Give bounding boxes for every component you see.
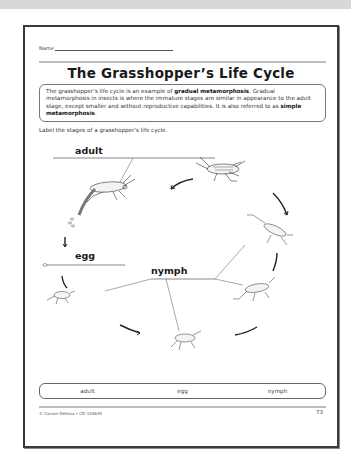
worksheet-page: Name The Grasshopper’s Life Cycle The gr… — [23, 25, 339, 448]
intro-text-3: . — [95, 110, 97, 116]
nymph-large-icon — [233, 277, 275, 301]
adult-grasshopper-laying-icon — [79, 175, 135, 215]
label-nymph: nymph — [151, 265, 187, 276]
word-bank-egg: egg — [143, 388, 223, 394]
instructions-text: Label the stages of a grasshopper’s life… — [39, 127, 167, 133]
adult-grasshopper-top-icon — [196, 157, 245, 181]
eggs-icon — [68, 218, 74, 227]
word-bank-nymph: nymph — [238, 388, 318, 394]
name-label: Name — [39, 45, 54, 51]
word-bank-adult: adult — [48, 388, 128, 394]
egg-icon — [43, 264, 47, 267]
copyright-text: © Carson-Dellosa • CD-104639 — [39, 411, 102, 416]
intro-text-box: The grasshopper’s life cycle is an examp… — [39, 84, 326, 122]
name-blank-line[interactable] — [55, 45, 173, 51]
word-bank: adult egg nymph — [39, 383, 326, 399]
cycle-arrow-icon — [62, 179, 288, 335]
life-cycle-diagram: adult egg nymph — [25, 135, 337, 385]
nymph-small-icon — [47, 291, 75, 304]
nymph-medium-icon — [171, 331, 201, 350]
page-number: 73 — [316, 409, 323, 415]
scanner-background-strip — [0, 0, 351, 9]
label-egg: egg — [75, 250, 95, 261]
intro-bold-gradual: gradual metamorphosis — [174, 88, 249, 94]
footer-divider — [39, 406, 326, 408]
nymph-oldest-icon — [247, 215, 293, 245]
page-title: The Grasshopper’s Life Cycle — [25, 65, 337, 81]
name-field: Name — [39, 45, 173, 51]
life-cycle-illustration — [25, 135, 337, 385]
label-adult: adult — [75, 145, 103, 156]
header-divider — [39, 61, 326, 63]
intro-text-1: The grasshopper’s life cycle is an examp… — [46, 88, 174, 94]
